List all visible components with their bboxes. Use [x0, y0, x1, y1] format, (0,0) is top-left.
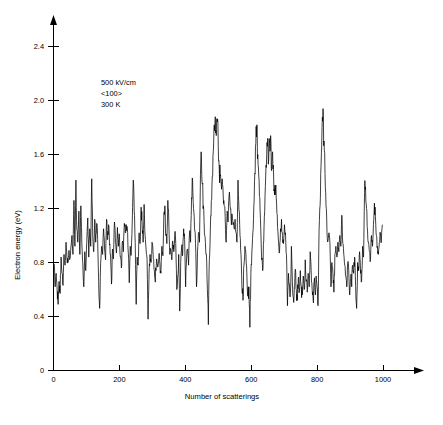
x-tick-label-0: 0 — [51, 375, 55, 384]
y-tick-label-4: 1.6 — [34, 150, 44, 159]
y-tick-label-3: 1.2 — [34, 204, 44, 213]
y-tick-label-1: 0.4 — [34, 312, 44, 321]
y-axis-title: Electron energy (eV) — [13, 210, 22, 280]
annotation-field: 500 kV/cm — [101, 78, 136, 87]
y-tick-label-6: 2.4 — [34, 42, 44, 51]
x-axis-arrowhead — [414, 367, 424, 374]
electron-energy-trace — [54, 109, 382, 328]
x-tick-label-3: 600 — [245, 375, 257, 384]
y-tick-label-2: 0.8 — [34, 258, 44, 267]
x-tick-label-2: 400 — [179, 375, 191, 384]
chart-plot: 0 0.4 0.8 1.2 1.6 2.0 2.4 0 200 400 600 … — [0, 0, 443, 425]
x-tick-label-4: 800 — [311, 375, 323, 384]
x-axis-ticks — [54, 365, 384, 371]
figure-container: 0 0.4 0.8 1.2 1.6 2.0 2.4 0 200 400 600 … — [0, 0, 443, 425]
annotation-temperature: 300 K — [101, 100, 120, 109]
x-axis-title: Number of scatterings — [185, 392, 259, 401]
annotation-orientation: <100> — [101, 89, 122, 98]
x-tick-label-1: 200 — [113, 375, 125, 384]
y-tick-label-0: 0 — [40, 366, 44, 375]
x-tick-label-5: 1000 — [375, 375, 391, 384]
y-axis-arrowhead — [50, 15, 57, 25]
y-tick-label-5: 2.0 — [34, 96, 44, 105]
